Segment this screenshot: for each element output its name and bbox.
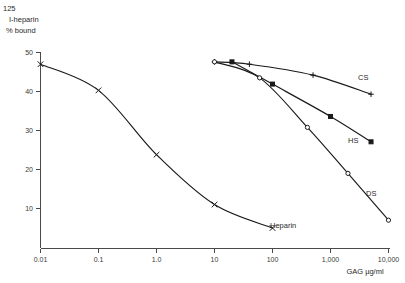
y-ticklabel-50: 50 bbox=[25, 49, 33, 56]
series-label-heparin: Heparin bbox=[270, 221, 296, 230]
x-ticklabel-3: 10 bbox=[211, 256, 219, 263]
datapoint-ds-2 bbox=[305, 125, 309, 129]
series-label-hs: HS bbox=[348, 136, 358, 145]
y-ticklabel-40: 40 bbox=[25, 88, 33, 95]
series-label-ds: DS bbox=[366, 189, 376, 198]
datapoint-ds-1 bbox=[258, 76, 262, 80]
plot-area: 50 40 30 20 10 0.01 0.1 1.0 10 100 1,000… bbox=[0, 0, 405, 283]
y-ticklabel-20: 20 bbox=[25, 166, 33, 173]
curve-cs bbox=[215, 62, 372, 94]
curves-layer bbox=[41, 62, 389, 228]
datapoint-hs-3 bbox=[369, 140, 373, 144]
datapoint-cs-3 bbox=[368, 91, 374, 97]
x-ticklabel-2: 1.0 bbox=[152, 256, 162, 263]
x-axis-caption: GAG µg/ml bbox=[346, 267, 384, 276]
datapoint-hs-2 bbox=[329, 114, 333, 118]
x-ticklabel-0: 0.01 bbox=[34, 256, 48, 263]
datapoint-cs-2 bbox=[310, 72, 316, 78]
x-ticklabel-1: 0.1 bbox=[94, 256, 104, 263]
x-ticklabel-6: 10,000 bbox=[378, 256, 400, 263]
x-ticklabel-5: 1,000 bbox=[322, 256, 340, 263]
datapoint-ds-0 bbox=[212, 60, 216, 64]
x-ticklabel-4: 100 bbox=[267, 256, 279, 263]
series-label-cs: CS bbox=[358, 73, 368, 82]
y-ticklabel-30: 30 bbox=[25, 127, 33, 134]
datapoint-cs-1 bbox=[247, 61, 253, 67]
datapoint-heparin-3 bbox=[212, 202, 218, 208]
chart-figure: 125 I-heparin % bound 50 40 30 20 10 0.0… bbox=[0, 0, 405, 283]
datapoint-hs-1 bbox=[271, 82, 275, 86]
datapoint-ds-4 bbox=[386, 218, 390, 222]
curve-heparin bbox=[41, 64, 273, 228]
y-ticklabel-10: 10 bbox=[25, 205, 33, 212]
curve-ds bbox=[215, 62, 389, 220]
datapoint-ds-3 bbox=[346, 171, 350, 175]
datapoint-heparin-2 bbox=[154, 152, 160, 158]
datapoint-hs-0 bbox=[230, 60, 234, 64]
datapoint-heparin-1 bbox=[96, 88, 102, 94]
